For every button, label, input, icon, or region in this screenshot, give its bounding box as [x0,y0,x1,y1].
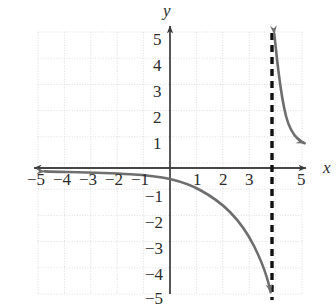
y-tick-label-3: 3 [153,83,162,100]
y-tick-label-1: 1 [153,135,162,152]
x-tick-label--2: −2 [105,171,123,188]
x-tick-label--5: −5 [27,171,45,188]
x-tick-label-2: 2 [219,171,228,188]
axes [34,26,306,294]
x-tick-label--1: −1 [131,171,149,188]
y-axis-label: y [163,2,171,19]
x-tick-label--3: −3 [79,171,97,188]
x-tick-label-3: 3 [245,171,254,188]
y-tick-label-2: 2 [153,109,162,126]
y-tick-label-4: 4 [153,57,162,74]
y-tick-label-5: 5 [153,31,162,48]
coordinate-plane [0,0,336,306]
y-tick-label--5: −5 [145,290,163,306]
y-tick-label--4: −4 [145,266,163,283]
y-tick-label--3: −3 [145,240,163,257]
x-tick-label-5: 5 [297,171,306,188]
graph-figure: y x −5 −4 −3 −2 −1 1 2 3 5 5 4 3 2 1 −1 … [0,0,336,306]
y-tick-label--2: −2 [145,214,163,231]
x-tick-label-1: 1 [193,171,202,188]
x-axis-label: x [323,159,331,176]
x-tick-label--4: −4 [53,171,71,188]
y-tick-label--1: −1 [145,188,163,205]
curve-right-branch [274,34,304,143]
